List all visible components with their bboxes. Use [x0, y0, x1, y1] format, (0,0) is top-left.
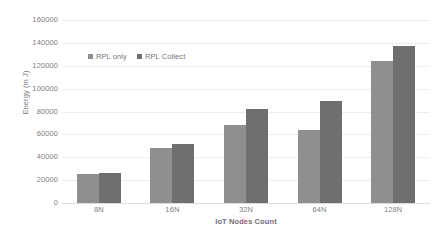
x-axis-ticks: 8N16N32N64N128N [62, 205, 430, 217]
legend-label: RPL Collect [145, 52, 185, 61]
y-axis-tick-label: 0 [2, 199, 58, 207]
bar [77, 174, 99, 203]
x-axis-tick-label: 32N [209, 205, 283, 217]
legend-item: RPL only [88, 52, 127, 61]
x-axis-tick-label: 64N [283, 205, 357, 217]
legend-item: RPL Collect [137, 52, 185, 61]
x-axis-tick-label: 8N [62, 205, 136, 217]
y-axis-tick-label: 80000 [2, 108, 58, 116]
y-axis-tick-label: 20000 [2, 176, 58, 184]
legend-swatch-icon [137, 54, 142, 59]
bar [246, 109, 268, 203]
bar-group [356, 20, 430, 203]
bar-chart: Energy (m J) 020000400006000080000100000… [0, 0, 442, 247]
bar [320, 101, 342, 203]
x-axis-title: IoT Nodes Count [62, 217, 430, 226]
gridline [62, 203, 430, 204]
y-axis-tick-label: 120000 [2, 62, 58, 70]
legend-label: RPL only [96, 52, 127, 61]
bar-group [62, 20, 136, 203]
bar-group [209, 20, 283, 203]
bar [224, 125, 246, 203]
x-axis-tick-label: 128N [356, 205, 430, 217]
legend-swatch-icon [88, 54, 93, 59]
x-axis-tick-label: 16N [136, 205, 210, 217]
bar [99, 173, 121, 203]
y-axis-tick-label: 60000 [2, 130, 58, 138]
bar-group [136, 20, 210, 203]
y-axis-ticks: 0200004000060000800001000001200001400001… [0, 20, 58, 203]
legend: RPL onlyRPL Collect [88, 52, 185, 61]
bar [172, 144, 194, 203]
bar [298, 130, 320, 203]
plot-area [62, 20, 430, 203]
figure-caption-strip [0, 236, 442, 247]
y-axis-tick-label: 160000 [2, 16, 58, 24]
bar [393, 46, 415, 203]
y-axis-tick-label: 140000 [2, 39, 58, 47]
y-axis-tick-label: 40000 [2, 153, 58, 161]
bar [150, 148, 172, 203]
y-axis-tick-label: 100000 [2, 85, 58, 93]
bar-group [283, 20, 357, 203]
bar-groups [62, 20, 430, 203]
bar [371, 61, 393, 203]
